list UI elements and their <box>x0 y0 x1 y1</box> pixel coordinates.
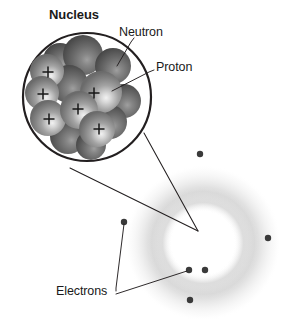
label-neutron: Neutron <box>119 26 163 39</box>
atom-structure-diagram: Nucleus Neutron Proton Electrons <box>0 0 292 327</box>
electron-cloud <box>125 165 281 321</box>
electron-dot <box>187 297 193 303</box>
label-nucleus: Nucleus <box>49 8 99 21</box>
diagram-canvas <box>0 0 292 327</box>
electron-dot <box>197 151 203 157</box>
electron-dot <box>265 235 271 241</box>
label-proton: Proton <box>156 61 192 74</box>
label-electrons: Electrons <box>56 285 107 298</box>
electron-dot <box>186 267 192 273</box>
electrons-leader-left <box>116 224 124 291</box>
electron-dot <box>202 267 208 273</box>
